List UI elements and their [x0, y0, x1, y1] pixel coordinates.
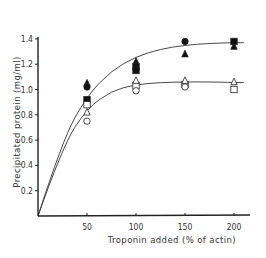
- y-tick-label: 1.4: [21, 34, 33, 44]
- open-square-marker: [84, 101, 90, 107]
- filled-square-marker: [133, 67, 139, 73]
- open-circle-marker: [84, 118, 90, 124]
- filled-circle-marker: [84, 84, 90, 90]
- filled-circle-marker: [182, 38, 188, 44]
- open-triangle-marker: [231, 78, 237, 85]
- y-tick-label: 0.4: [21, 160, 33, 170]
- y-tick-label: 1.0: [21, 85, 33, 95]
- open-square-marker: [231, 86, 237, 92]
- open-circle-marker: [133, 88, 139, 94]
- open-triangle-marker: [182, 77, 188, 84]
- filled-triangle-marker: [182, 50, 188, 57]
- x-axis-line: [38, 215, 250, 216]
- x-tick-label: 200: [227, 222, 242, 232]
- x-tick-label: 50: [82, 222, 92, 232]
- data-points: [84, 38, 237, 124]
- fit-curves: [38, 43, 244, 216]
- open-triangle-marker: [84, 108, 90, 115]
- y-tick-label: 1.2: [21, 59, 33, 69]
- fit-curve: [38, 43, 244, 216]
- axis-labels: Troponin added (% of actin) Precipitated…: [12, 56, 236, 245]
- x-tick-label: 100: [129, 222, 144, 232]
- y-tick-label: 0.8: [21, 110, 33, 120]
- open-triangle-marker: [133, 77, 139, 84]
- y-tick-label: 0.6: [21, 135, 33, 145]
- filled-square-marker: [231, 38, 237, 44]
- x-axis-label: Troponin added (% of actin): [107, 235, 236, 245]
- y-axis-label: Precipitated protein (mg/ml): [12, 56, 22, 187]
- open-circle-marker: [182, 84, 188, 90]
- y-tick-label: 0.2: [21, 186, 33, 196]
- fit-curve: [38, 82, 244, 216]
- precipitation-chart: 0.20.40.60.81.01.21.450100150200 Troponi…: [0, 0, 266, 258]
- x-tick-label: 150: [178, 222, 193, 232]
